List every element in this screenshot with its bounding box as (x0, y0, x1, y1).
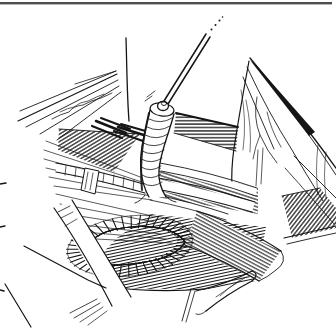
flap-vessel (267, 112, 281, 147)
right-lower-band (282, 188, 336, 244)
platysma-edge-band (174, 113, 238, 151)
flap-vessel (253, 135, 260, 159)
catheter (145, 16, 223, 110)
rim-tick (95, 224, 104, 234)
catheter-dotted-continuation (211, 29, 213, 31)
ligated-cord (56, 163, 147, 194)
figure-canvas: Black-and-white surgical illustration of… (0, 0, 336, 336)
surgical-illustration: Black-and-white surgical illustration of… (0, 0, 336, 336)
rim-tick (68, 254, 84, 258)
top-border-rule (0, 2, 332, 4)
rim-tick (67, 252, 83, 254)
margin-tick-marks (0, 183, 6, 291)
